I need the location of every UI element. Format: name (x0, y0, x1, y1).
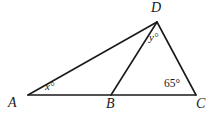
vertex-label-b: B (106, 97, 115, 111)
angle-label-c-65: 65° (164, 78, 180, 90)
angle-label-x: x° (45, 81, 54, 92)
vertex-label-c: C (196, 97, 205, 111)
angle-label-y: y° (149, 32, 158, 43)
geometry-figure: A B C D x° y° 65° (0, 0, 218, 115)
vertex-label-a: A (8, 96, 17, 110)
vertex-label-d: D (151, 1, 161, 15)
